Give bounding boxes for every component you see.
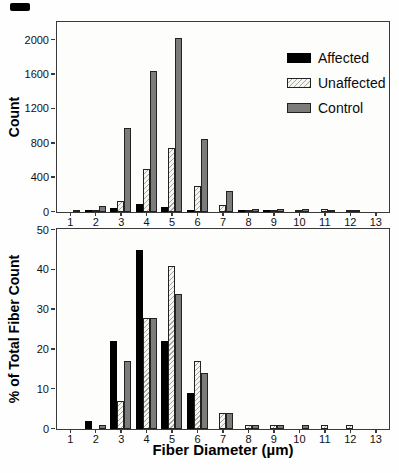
scan-artifact-mark — [10, 3, 30, 11]
x-tick-mark — [171, 430, 173, 433]
x-tick-label: 11 — [313, 433, 337, 445]
x-tick-label: 6 — [186, 433, 210, 445]
unaffected-bar — [194, 361, 201, 429]
control-bar — [277, 209, 284, 212]
x-tick-mark — [324, 213, 326, 216]
control-bar — [124, 361, 131, 429]
x-tick-mark — [299, 430, 301, 433]
control-bar — [73, 210, 80, 212]
x-tick-mark — [375, 213, 377, 216]
control-bar — [252, 425, 259, 429]
legend-label: Unaffected — [318, 75, 385, 91]
unaffected-bar — [245, 210, 252, 212]
x-tick-mark — [222, 213, 224, 216]
affected-bar — [187, 210, 194, 212]
x-tick-mark — [324, 430, 326, 433]
unaffected-bar — [321, 209, 328, 212]
y-tick-mark — [51, 229, 55, 231]
y-tick-mark — [51, 142, 55, 144]
x-tick-label: 2 — [84, 216, 108, 228]
control-bar — [175, 38, 182, 212]
y-tick-label: 10 — [9, 383, 49, 395]
y-tick-label: 30 — [9, 303, 49, 315]
affected-bar — [263, 210, 270, 212]
x-tick-mark — [350, 430, 352, 433]
x-tick-mark — [120, 430, 122, 433]
control-bar — [150, 318, 157, 429]
x-tick-label: 11 — [313, 216, 337, 228]
affected-bar — [110, 341, 117, 429]
legend-row: Control — [287, 100, 385, 116]
unaffected-bar — [168, 266, 175, 429]
legend-label: Affected — [318, 50, 369, 66]
x-tick-mark — [222, 430, 224, 433]
y-tick-mark — [51, 108, 55, 110]
x-tick-mark — [70, 213, 72, 216]
x-tick-mark — [273, 213, 275, 216]
x-tick-label: 3 — [109, 433, 133, 445]
unaffected-bar — [117, 401, 124, 429]
control-bar — [302, 209, 309, 212]
legend: AffectedUnaffectedControl — [287, 50, 385, 125]
y-tick-mark — [51, 428, 55, 430]
control-bar — [328, 210, 335, 212]
y-tick-label: 800 — [9, 137, 49, 149]
y-tick-label: 50 — [9, 224, 49, 236]
control-bar — [226, 191, 233, 212]
y-tick-label: 40 — [9, 263, 49, 275]
x-tick-mark — [70, 430, 72, 433]
unaffected-bar — [346, 425, 353, 429]
figure: Count AffectedUnaffectedControl % of Tot… — [0, 0, 399, 473]
control-bar — [353, 210, 360, 212]
y-tick-label: 20 — [9, 343, 49, 355]
x-tick-label: 8 — [237, 433, 261, 445]
y-tick-mark — [51, 176, 55, 178]
y-tick-mark — [51, 348, 55, 350]
control-bar — [99, 425, 106, 429]
unaffected-bar — [270, 210, 277, 212]
x-tick-label: 9 — [262, 433, 286, 445]
x-tick-mark — [248, 213, 250, 216]
control-bar — [252, 209, 259, 212]
x-tick-label: 13 — [364, 216, 388, 228]
x-tick-mark — [197, 213, 199, 216]
y-tick-label: 400 — [9, 171, 49, 183]
unaffected-swatch-icon — [287, 78, 311, 88]
control-bar — [99, 206, 106, 212]
x-tick-label: 9 — [262, 216, 286, 228]
control-swatch-icon — [287, 103, 311, 113]
x-tick-label: 13 — [364, 433, 388, 445]
unaffected-bar — [346, 210, 353, 212]
affected-bar — [136, 250, 143, 429]
affected-swatch-icon — [287, 53, 311, 63]
x-tick-label: 4 — [135, 433, 159, 445]
x-tick-label: 5 — [160, 433, 184, 445]
unaffected-bar — [321, 425, 328, 429]
y-tick-mark — [51, 388, 55, 390]
affected-bar — [238, 210, 245, 212]
unaffected-bar — [245, 425, 252, 429]
x-tick-mark — [146, 213, 148, 216]
y-tick-mark — [51, 39, 55, 41]
x-tick-mark — [299, 213, 301, 216]
control-bar — [302, 425, 309, 429]
control-bar — [150, 71, 157, 212]
affected-bar — [85, 210, 92, 212]
control-bar — [277, 425, 284, 429]
unaffected-bar — [143, 169, 150, 212]
x-tick-mark — [95, 213, 97, 216]
x-tick-label: 10 — [287, 433, 311, 445]
y-tick-mark — [51, 269, 55, 271]
affected-bar — [187, 393, 194, 429]
x-tick-label: 3 — [109, 216, 133, 228]
x-tick-mark — [95, 430, 97, 433]
x-tick-label: 7 — [211, 433, 235, 445]
x-tick-label: 8 — [237, 216, 261, 228]
count-plot-area: AffectedUnaffectedControl — [56, 21, 390, 213]
control-bar — [201, 373, 208, 429]
x-tick-label: 7 — [211, 216, 235, 228]
x-tick-label: 5 — [160, 216, 184, 228]
x-tick-label: 1 — [58, 433, 82, 445]
x-tick-label: 10 — [287, 216, 311, 228]
unaffected-bar — [295, 210, 302, 212]
